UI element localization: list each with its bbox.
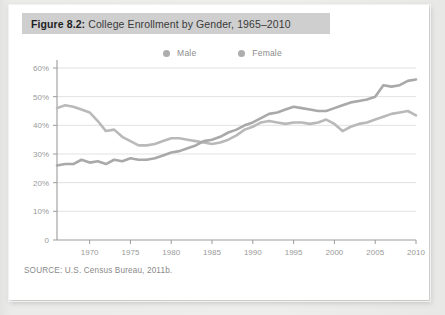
y-tick-label: 10%	[33, 207, 49, 216]
x-tick-label: 2000	[326, 248, 344, 257]
x-tick-label: 1975	[122, 248, 140, 257]
y-tick-label: 40%	[33, 121, 49, 130]
x-tick-label: 1980	[162, 248, 180, 257]
y-tick-label: 30%	[33, 150, 49, 159]
figure-screenshot: Figure 8.2: College Enrollment by Gender…	[0, 0, 445, 315]
figure-source: SOURCE: U.S. Census Bureau, 2011b.	[24, 266, 172, 275]
y-tick-label: 0	[45, 236, 50, 245]
x-tick-label: 1995	[285, 248, 303, 257]
x-tick-label: 1970	[81, 248, 99, 257]
y-tick-label: 50%	[33, 93, 49, 102]
y-tick-label: 20%	[33, 179, 49, 188]
x-tick-label: 2005	[366, 248, 384, 257]
x-tick-label: 2010	[407, 248, 425, 257]
y-tick-label: 60%	[33, 64, 49, 73]
x-tick-label: 1985	[203, 248, 221, 257]
x-tick-label: 1990	[244, 248, 262, 257]
